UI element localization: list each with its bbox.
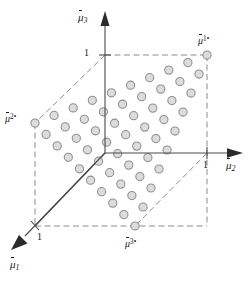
lattice-point [165,66,173,74]
axis-label-mu1-subscript: 1 [16,263,20,272]
lattice-point [64,153,72,161]
lattice-point [146,74,154,82]
lattice-point [147,184,155,192]
lattice-point [61,123,69,131]
axis-mu1-line [25,153,105,236]
lattice-point [50,111,58,119]
vertex-label-mu1-superscript: 1• [203,35,209,43]
lattice-point [126,81,134,89]
tick-label-mu3: 1 [84,48,89,58]
lattice-point [195,70,203,78]
lattice-point [114,150,122,158]
lattice-point [42,130,50,138]
lattice-point [130,112,138,120]
lattice-point [157,85,165,93]
lattice-point [99,108,107,116]
lattice-point [106,169,114,177]
lattice-point [69,104,77,112]
lattice-point-group [31,51,211,230]
lattice-point [75,165,83,173]
axis-mu2-arrowhead [227,148,243,158]
lattice-point [94,157,102,165]
lattice-point [152,134,160,142]
lattice-point [107,89,115,97]
lattice-point [149,104,157,112]
lattice-point [187,89,195,97]
lattice-point [118,100,126,108]
lattice-point [128,191,136,199]
lattice-point [88,96,96,104]
lattice-point [136,172,144,180]
lattice-point [155,165,163,173]
lattice-point [179,108,187,116]
lattice-point [144,153,152,161]
lattice-point [160,115,168,123]
lattice-point [53,142,61,150]
lattice-point [109,199,117,207]
axis-label-mu3: μ3 [78,12,87,25]
axis-mu3-arrowhead [101,11,110,26]
lattice-point [176,77,184,85]
lattice-point [133,142,141,150]
axis-mu1-arrowhead [11,235,28,250]
lattice-point [171,127,179,135]
lattice-point [110,119,118,127]
lattice-point [91,127,99,135]
tick-label-mu1: 1 [37,232,42,242]
lattice-point [72,134,80,142]
dash-upper-left-diagonal [35,55,105,123]
simplex-figure: μ3 1 μ2 1 μ1 1 μ1• μ2• μ3• [0,0,250,282]
lattice-point [102,138,110,146]
lattice-point [80,115,88,123]
lattice-point [117,180,125,188]
vertex-label-mu3-star: μ3• [125,239,136,249]
lattice-point [125,161,133,169]
axis-label-mu3-subscript: 3 [84,16,88,25]
lattice-point [83,146,91,154]
lattice-point [203,51,211,59]
lattice-point [138,93,146,101]
tick-label-mu2: 1 [203,160,208,170]
vertex-label-mu2-star: μ2• [5,114,16,124]
lattice-point [98,188,106,196]
vertex-label-mu1-star: μ1• [198,36,209,46]
axis-label-mu1: μ1 [10,259,19,272]
lattice-point [120,210,128,218]
vertex-label-mu2-superscript: 2• [10,113,16,121]
lattice-point [139,203,147,211]
lattice-point [131,222,139,230]
dash-lower-right-diagonal [135,153,207,226]
lattice-point [168,96,176,104]
axis-label-mu2: μ2 [226,160,235,173]
lattice-point [86,176,94,184]
vertex-label-mu3-superscript: 3• [130,238,136,246]
lattice-point [141,123,149,131]
axis-label-mu2-subscript: 2 [232,164,236,173]
lattice-point [122,131,130,139]
lattice-point [31,119,39,127]
lattice-point [184,58,192,66]
